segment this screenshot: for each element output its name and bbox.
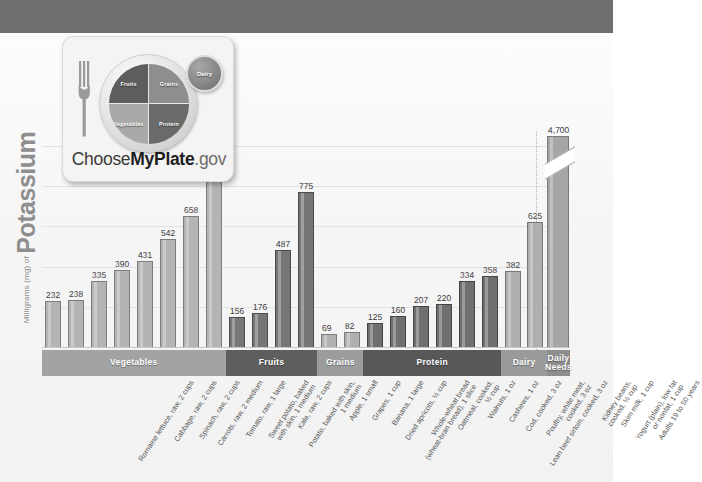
- plate-dairy-circle: Dairy: [186, 55, 223, 92]
- bar: 334: [459, 281, 475, 348]
- plate-section-grains: Grains: [149, 64, 189, 104]
- bar-slot: 334: [455, 127, 478, 348]
- bar-slot: 382: [501, 127, 524, 348]
- plate-section-protein: Protein: [149, 104, 189, 144]
- daily-needs-divider: [536, 131, 537, 358]
- plate-section-vegetables: Vegetables: [109, 104, 149, 144]
- bar-slot: 176: [249, 127, 272, 348]
- bar-value-label: 69: [322, 323, 332, 333]
- category-band-vegetables: Vegetables: [42, 350, 226, 376]
- plate-label-dairy: Dairy: [197, 71, 212, 77]
- bar-value-label: 334: [460, 270, 474, 280]
- bar-value-label: 542: [161, 228, 175, 238]
- bar: 487: [275, 250, 291, 348]
- category-band-dairy: Dairy: [501, 350, 547, 376]
- bar-value-label: 775: [299, 181, 313, 191]
- bar: 160: [390, 316, 406, 348]
- bar: 542: [160, 239, 176, 348]
- bar-slot: 160: [386, 127, 409, 348]
- axis-break-marker: [545, 146, 575, 179]
- plate-label-vegetables: Vegetables: [113, 121, 143, 127]
- myplate-logo: Fruits Grains Vegetables Protein Dairy C…: [62, 36, 234, 182]
- plate-sections: Fruits Grains Vegetables Protein: [109, 64, 189, 144]
- plate-label-fruits: Fruits: [120, 81, 136, 87]
- bar-value-label: 390: [115, 259, 129, 269]
- chart-page: Fruits Grains Vegetables Protein Dairy C…: [0, 33, 613, 482]
- bar-value-label: 232: [46, 290, 60, 300]
- bar-value-label: 207: [414, 295, 428, 305]
- bar-value-label: 358: [482, 265, 496, 275]
- bar: 358: [482, 276, 498, 348]
- bar-value-label: 4,700: [548, 125, 569, 135]
- plate-graphic: Fruits Grains Vegetables Protein: [99, 54, 197, 152]
- bar-slot: 487: [272, 127, 295, 348]
- category-band-fruits: Fruits: [226, 350, 318, 376]
- bar: 658: [183, 216, 199, 348]
- bar: 125: [367, 323, 383, 348]
- bar-slot: 82: [340, 127, 363, 348]
- category-bands: VegetablesFruitsGrainsProteinDairyDaily …: [42, 350, 570, 376]
- bar: 4,700: [547, 136, 569, 348]
- bar-value-label: 335: [92, 270, 106, 280]
- y-axis-main-label: Potassium: [12, 132, 40, 254]
- fork-icon: [78, 61, 92, 137]
- x-axis-labels: Romaine lettuce, raw, 2 cupsCabbage, raw…: [42, 379, 602, 482]
- axis-baseline: [42, 347, 570, 348]
- bar: 390: [114, 270, 130, 348]
- bar-slot: 207: [409, 127, 432, 348]
- bar-value-label: 220: [437, 293, 451, 303]
- bar: 926: [206, 162, 222, 348]
- bar-slot: 220: [432, 127, 455, 348]
- y-axis-title: Milligrams (mg) of Potassium: [12, 98, 41, 358]
- bar-value-label: 125: [368, 312, 382, 322]
- bar: 775: [298, 192, 314, 348]
- y-axis-unit: Milligrams (mg) of: [22, 254, 31, 324]
- bar-value-label: 382: [505, 260, 519, 270]
- plate-label-grains: Grains: [160, 81, 178, 87]
- bar-slot: 69: [317, 127, 340, 348]
- bar: 220: [436, 304, 452, 348]
- header-band: [0, 0, 613, 33]
- bar: 176: [252, 313, 268, 348]
- wordmark-myplate: MyPlate: [130, 149, 194, 169]
- category-band-protein: Protein: [363, 350, 501, 376]
- bar: 82: [344, 332, 360, 348]
- category-band-grains: Grains: [317, 350, 363, 376]
- category-band-daily: Daily Needs: [547, 350, 570, 376]
- bar: 156: [229, 317, 245, 348]
- bar-value-label: 487: [276, 239, 290, 249]
- bar-value-label: 176: [253, 302, 267, 312]
- bar-slot: 775: [294, 127, 317, 348]
- bar-slot: 4,700: [547, 127, 570, 348]
- bar: 232: [45, 301, 61, 348]
- bar: 382: [505, 271, 521, 348]
- bar: 335: [91, 281, 107, 348]
- wordmark-gov: .gov: [194, 149, 226, 169]
- bar: 207: [413, 306, 429, 348]
- bar: 69: [321, 334, 337, 348]
- bar: 431: [137, 261, 153, 348]
- bar: 238: [68, 300, 84, 348]
- bar-slot: 125: [363, 127, 386, 348]
- bar-value-label: 238: [69, 289, 83, 299]
- plate-section-fruits: Fruits: [109, 64, 149, 104]
- bar-value-label: 160: [391, 305, 405, 315]
- bar-slot: 358: [478, 127, 501, 348]
- plate-label-protein: Protein: [159, 121, 179, 127]
- bar-value-label: 156: [230, 306, 244, 316]
- wordmark-choose: Choose: [72, 149, 131, 169]
- bar-value-label: 82: [345, 320, 355, 330]
- bar-value-label: 658: [184, 205, 198, 215]
- bar-value-label: 431: [138, 250, 152, 260]
- logo-wordmark: ChooseMyPlate.gov: [63, 149, 235, 170]
